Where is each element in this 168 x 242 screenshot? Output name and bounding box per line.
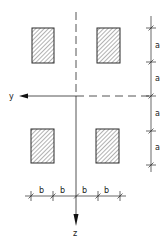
y-axis-label: y bbox=[9, 92, 14, 101]
y-axis: y bbox=[9, 92, 152, 101]
dimension-a-3: a bbox=[155, 109, 160, 118]
top-left-section bbox=[32, 28, 54, 63]
z-axis: z bbox=[73, 12, 79, 238]
dimension-a-4: a bbox=[155, 143, 160, 152]
dimension-b-3: b bbox=[82, 186, 87, 195]
bottom-left-section bbox=[31, 129, 54, 163]
dimension-b-1: b bbox=[39, 186, 44, 195]
section-rectangles bbox=[31, 28, 120, 163]
z-axis-label: z bbox=[73, 229, 77, 238]
horizontal-dimension-line: b b b b bbox=[25, 186, 126, 201]
top-right-section bbox=[97, 28, 120, 63]
z-axis-arrow-icon bbox=[74, 214, 79, 226]
y-axis-arrow-icon bbox=[19, 94, 28, 99]
dimension-b-4: b bbox=[104, 186, 109, 195]
dimension-a-2: a bbox=[155, 74, 160, 83]
vertical-dimension-line: a a a a bbox=[146, 16, 160, 172]
diagram-canvas: z y a a a a b b b b bbox=[0, 0, 168, 242]
dimension-a-1: a bbox=[155, 41, 160, 50]
dimension-b-2: b bbox=[60, 186, 65, 195]
bottom-right-section bbox=[96, 129, 119, 163]
